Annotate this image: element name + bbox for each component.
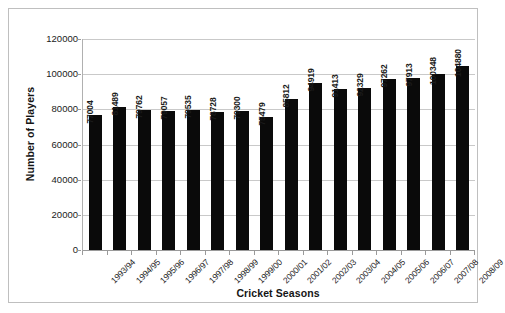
bar-group[interactable]: 79762	[132, 39, 157, 250]
bar-group[interactable]: 104880	[451, 39, 476, 250]
bar[interactable]: 92329	[358, 88, 371, 250]
x-axis-tick-label: 1994/95	[134, 257, 162, 285]
x-axis-tick-label: 1999/00	[256, 257, 284, 285]
x-axis-tick-label: 1996/97	[183, 257, 211, 285]
x-axis-tick-mark	[450, 251, 451, 255]
x-axis-tick-mark	[107, 251, 108, 255]
bar[interactable]: 79300	[236, 111, 249, 250]
x-axis-tick-labels: 1993/941994/951995/961996/971997/981998/…	[82, 251, 474, 285]
bar-group[interactable]: 75479	[255, 39, 280, 250]
x-axis-tick-label: 2003/04	[354, 257, 382, 285]
x-axis-tick-label: 1998/99	[232, 257, 260, 285]
x-axis-tick-mark	[474, 251, 475, 255]
bar[interactable]: 79057	[162, 111, 175, 250]
x-axis-tick-label: 2007/08	[452, 257, 480, 285]
bar-group[interactable]: 85812	[279, 39, 304, 250]
x-axis-tick-label: 2005/06	[403, 257, 431, 285]
bar-group[interactable]: 91413	[328, 39, 353, 250]
x-axis-tick-label: 2006/07	[428, 257, 456, 285]
bar[interactable]: 78728	[211, 112, 224, 250]
x-axis-tick-label: 2000/01	[281, 257, 309, 285]
y-axis-tick-mark	[77, 250, 81, 251]
x-axis-tick-mark	[303, 251, 304, 255]
x-axis-tick-mark	[229, 251, 230, 255]
bar-value-label: 77004	[85, 100, 95, 123]
x-axis-tick-mark	[401, 251, 402, 255]
bar-group[interactable]: 100348	[426, 39, 451, 250]
bar-group[interactable]: 92329	[353, 39, 378, 250]
x-axis-tick-mark	[254, 251, 255, 255]
x-axis-tick-mark	[327, 251, 328, 255]
x-axis-tick-mark	[278, 251, 279, 255]
bar[interactable]: 104880	[456, 66, 469, 250]
y-axis-tick-mark	[77, 74, 81, 75]
y-axis-tick-mark	[77, 145, 81, 146]
x-axis-tick-label: 1997/98	[207, 257, 235, 285]
bar-value-label: 97913	[404, 63, 414, 86]
bar-group[interactable]: 97262	[377, 39, 402, 250]
bar-value-label: 94919	[306, 69, 316, 92]
bar-group[interactable]: 79300	[230, 39, 255, 250]
bar-value-label: 100348	[428, 57, 438, 85]
x-axis-tick-mark	[156, 251, 157, 255]
bar-group[interactable]: 97913	[402, 39, 427, 250]
x-axis-tick-mark	[205, 251, 206, 255]
bar-group[interactable]: 79535	[181, 39, 206, 250]
bar-group[interactable]: 78728	[206, 39, 231, 250]
bar-value-label: 79762	[134, 95, 144, 118]
bar[interactable]: 94919	[309, 83, 322, 250]
x-axis-tick-label: 2008/09	[477, 257, 505, 285]
x-axis-tick-mark	[376, 251, 377, 255]
x-axis-tick-mark	[180, 251, 181, 255]
y-axis-tick-mark	[77, 215, 81, 216]
x-axis-tick-label: 2004/05	[379, 257, 407, 285]
x-axis-tick-label: 1993/94	[109, 257, 137, 285]
chart-frame: Number of Players Cricket Seasons 020000…	[8, 8, 478, 303]
bar[interactable]: 77004	[89, 115, 102, 250]
bar[interactable]: 100348	[432, 74, 445, 250]
plot-area: 7700481489797627905779535787287930075479…	[82, 39, 475, 251]
bar-value-label: 92329	[355, 73, 365, 96]
bar-value-label: 104880	[453, 49, 463, 77]
bar-value-label: 79057	[159, 96, 169, 119]
bar[interactable]: 97913	[407, 78, 420, 250]
bar-group[interactable]: 94919	[304, 39, 329, 250]
bar-group[interactable]: 79057	[157, 39, 182, 250]
x-axis-tick-mark	[82, 251, 83, 255]
bar-group[interactable]: 81489	[108, 39, 133, 250]
bar[interactable]: 97262	[383, 79, 396, 250]
y-axis-tick-mark	[77, 109, 81, 110]
bar-value-label: 79300	[232, 96, 242, 119]
bar-value-label: 75479	[257, 103, 267, 126]
x-axis-tick-mark	[425, 251, 426, 255]
bar-value-label: 91413	[330, 75, 340, 98]
x-axis-tick-label: 2002/03	[330, 257, 358, 285]
bar-value-label: 78728	[208, 97, 218, 120]
y-axis-tick-mark	[77, 180, 81, 181]
bar[interactable]: 85812	[285, 99, 298, 250]
bar-value-label: 97262	[379, 64, 389, 87]
bar[interactable]: 81489	[113, 107, 126, 250]
x-axis-title: Cricket Seasons	[82, 287, 474, 299]
x-axis-tick-mark	[131, 251, 132, 255]
bar-value-label: 85812	[281, 85, 291, 108]
y-axis-tick-marks	[9, 39, 82, 250]
bar-value-label: 79535	[183, 96, 193, 119]
bar[interactable]: 75479	[260, 117, 273, 250]
bar-group[interactable]: 77004	[83, 39, 108, 250]
x-axis-tick-mark	[352, 251, 353, 255]
y-axis-tick-mark	[77, 39, 81, 40]
bar-value-label: 81489	[110, 92, 120, 115]
x-axis-tick-label: 1995/96	[158, 257, 186, 285]
x-axis-tick-label: 2001/02	[305, 257, 333, 285]
bar[interactable]: 79762	[138, 110, 151, 250]
bar[interactable]: 79535	[187, 110, 200, 250]
bar[interactable]: 91413	[334, 89, 347, 250]
